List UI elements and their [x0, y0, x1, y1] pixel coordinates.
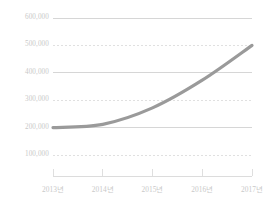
x-axis-tick-label: 2017년	[228, 186, 263, 193]
x-axis-tick-label: 2015년	[129, 186, 177, 193]
line-chart: 100,000200,000300,000400,000500,000600,0…	[0, 0, 263, 215]
x-axis-tick-label: 2016년	[178, 186, 226, 193]
x-axis-tick-label: 2013년	[29, 186, 77, 193]
x-axis-tick-labels: 2013년2014년2015년2016년2017년	[0, 0, 263, 215]
x-axis-tick-label: 2014년	[79, 186, 127, 193]
